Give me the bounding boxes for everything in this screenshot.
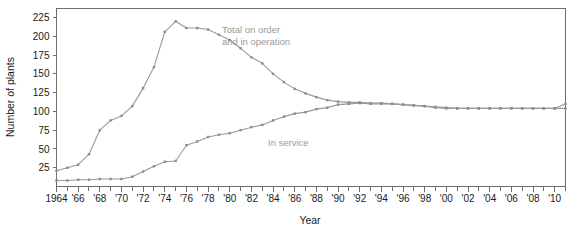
y-tick-label: 125: [33, 87, 50, 98]
data-point-marker: [391, 103, 393, 105]
series-polyline: [57, 103, 566, 180]
x-tick-label: '90: [332, 193, 345, 204]
x-tick-label: '68: [93, 193, 106, 204]
x-tick-label: '88: [310, 193, 323, 204]
data-point-marker: [564, 103, 566, 105]
data-point-marker: [250, 126, 252, 128]
data-point-marker: [77, 179, 79, 181]
data-point-marker: [164, 31, 166, 33]
plot-frame: [57, 9, 566, 187]
data-point-marker: [109, 178, 111, 180]
data-point-marker: [196, 140, 198, 142]
data-point-marker: [369, 103, 371, 105]
data-point-marker: [120, 115, 122, 117]
data-point-marker: [510, 107, 512, 109]
x-tick-label: '76: [180, 193, 193, 204]
annotation-total-on-order-line1: Total on order: [222, 24, 280, 35]
series-in-service: [55, 102, 566, 182]
y-axis-title: Number of plants: [4, 57, 16, 137]
x-tick-label: '74: [158, 193, 171, 204]
y-tick-label: 150: [33, 68, 50, 79]
data-point-marker: [207, 28, 209, 30]
data-point-marker: [488, 107, 490, 109]
line-chart: 255075100125150175200225 1964'66'68'70'7…: [0, 0, 577, 228]
data-point-marker: [380, 103, 382, 105]
data-point-marker: [142, 170, 144, 172]
x-tick-label: '00: [440, 193, 453, 204]
y-tick-label: 100: [33, 106, 50, 117]
data-point-marker: [88, 153, 90, 155]
y-tick-label: 25: [38, 162, 50, 173]
data-point-marker: [532, 107, 534, 109]
y-tick-label: 225: [33, 12, 50, 23]
x-tick-label: '10: [548, 193, 561, 204]
x-tick-label: '92: [353, 193, 366, 204]
x-tick-label: '70: [115, 193, 128, 204]
data-point-marker: [315, 108, 317, 110]
data-point-marker: [174, 20, 176, 22]
data-point-marker: [283, 115, 285, 117]
data-point-marker: [272, 73, 274, 75]
data-point-marker: [55, 179, 57, 181]
series-annotations: Total on orderand in operationIn service: [222, 24, 309, 148]
data-point-marker: [153, 66, 155, 68]
x-tick-label: '80: [223, 193, 236, 204]
x-tick-label: '84: [267, 193, 280, 204]
chart-container: 255075100125150175200225 1964'66'68'70'7…: [0, 0, 577, 228]
data-point-marker: [239, 47, 241, 49]
data-point-marker: [326, 106, 328, 108]
data-point-marker: [337, 103, 339, 105]
data-point-marker: [424, 105, 426, 107]
data-point-marker: [294, 112, 296, 114]
data-point-marker: [294, 88, 296, 90]
annotation-in-service: In service: [268, 137, 309, 148]
y-tick-label: 175: [33, 50, 50, 61]
x-axis-title: Year: [299, 214, 321, 226]
data-point-marker: [66, 167, 68, 169]
data-point-marker: [66, 179, 68, 181]
data-point-marker: [456, 107, 458, 109]
data-point-marker: [131, 176, 133, 178]
y-tick-label: 75: [38, 125, 50, 136]
data-point-marker: [174, 160, 176, 162]
data-point-marker: [553, 107, 555, 109]
data-point-marker: [315, 96, 317, 98]
x-tick-label: '66: [72, 193, 85, 204]
data-point-marker: [304, 111, 306, 113]
data-point-marker: [564, 107, 566, 109]
x-tick-label: '06: [505, 193, 518, 204]
x-tick-label: '86: [288, 193, 301, 204]
data-point-marker: [359, 102, 361, 104]
data-point-marker: [272, 119, 274, 121]
data-point-marker: [218, 34, 220, 36]
y-axis-tick-labels: 255075100125150175200225: [33, 12, 50, 173]
data-point-marker: [142, 87, 144, 89]
data-point-marker: [153, 165, 155, 167]
x-tick-label: '94: [375, 193, 388, 204]
data-point-marker: [229, 132, 231, 134]
data-point-marker: [55, 170, 57, 172]
data-point-marker: [445, 107, 447, 109]
data-point-marker: [304, 92, 306, 94]
data-point-marker: [218, 133, 220, 135]
x-tick-label: '82: [245, 193, 258, 204]
data-point-marker: [261, 124, 263, 126]
data-point-marker: [402, 103, 404, 105]
data-point-marker: [348, 103, 350, 105]
x-tick-label: '08: [526, 193, 539, 204]
data-point-marker: [207, 136, 209, 138]
annotation-total-on-order-line2: and in operation: [222, 36, 290, 47]
data-point-marker: [120, 178, 122, 180]
data-point-marker: [283, 81, 285, 83]
data-point-marker: [543, 107, 545, 109]
data-point-marker: [196, 27, 198, 29]
data-point-marker: [131, 105, 133, 107]
x-axis-ticks: [57, 187, 566, 192]
x-tick-label: '02: [462, 193, 475, 204]
x-tick-label: '98: [418, 193, 431, 204]
data-point-marker: [164, 161, 166, 163]
x-tick-label: 1964: [45, 193, 68, 204]
data-point-marker: [478, 107, 480, 109]
series-total-on-order: [55, 20, 566, 172]
data-point-marker: [250, 56, 252, 58]
